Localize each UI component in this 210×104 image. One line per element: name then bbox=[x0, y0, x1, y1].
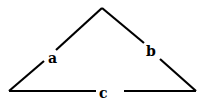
label-a: a bbox=[48, 50, 57, 66]
triangle-diagram: a b c bbox=[0, 0, 210, 104]
label-b: b bbox=[146, 43, 156, 59]
label-c: c bbox=[99, 85, 108, 101]
